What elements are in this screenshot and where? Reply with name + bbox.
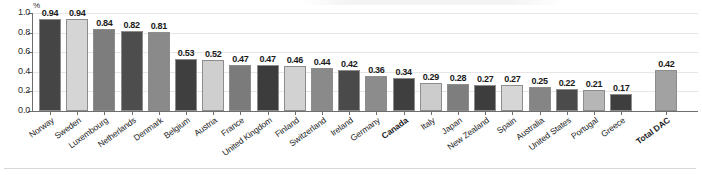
bar-italy[interactable]: 0.29	[420, 82, 442, 111]
bar-sweden[interactable]: 0.94	[66, 18, 88, 111]
bar-new-zealand[interactable]: 0.27	[474, 84, 496, 111]
bar-rect	[338, 70, 360, 111]
bar-rect	[257, 65, 279, 111]
bar-rect	[93, 29, 115, 111]
category-labels-layer: NorwaySwedenLuxembourgNetherlandsDenmark…	[32, 113, 698, 175]
bar-rect	[202, 60, 224, 111]
bar-rect	[229, 65, 251, 111]
bar-denmark[interactable]: 0.81	[148, 31, 170, 111]
bar-norway[interactable]: 0.94	[39, 18, 61, 111]
bar-rect	[148, 32, 170, 111]
bar-rect	[583, 90, 605, 111]
bar-ireland[interactable]: 0.42	[338, 69, 360, 111]
bar-united-states[interactable]: 0.22	[556, 88, 578, 111]
y-tick-label: 0.6	[0, 46, 30, 56]
bar-rect	[311, 68, 333, 111]
bar-belgium[interactable]: 0.53	[175, 58, 197, 111]
bar-rect	[529, 87, 551, 112]
bar-portugal[interactable]: 0.21	[583, 89, 605, 111]
bar-value-label: 0.42	[649, 59, 683, 69]
bar-value-label: 0.17	[604, 83, 638, 93]
bar-france[interactable]: 0.47	[229, 64, 251, 111]
bar-finland[interactable]: 0.46	[284, 65, 306, 111]
bar-united-kingdom[interactable]: 0.47	[257, 64, 279, 111]
bar-rect	[393, 78, 415, 111]
bar-rect	[610, 94, 632, 111]
bar-netherlands[interactable]: 0.82	[121, 30, 143, 111]
bar-rect	[474, 85, 496, 111]
bar-greece[interactable]: 0.17	[610, 93, 632, 111]
bar-rect	[501, 85, 523, 111]
bar-rect	[284, 66, 306, 111]
bar-rect	[556, 89, 578, 111]
y-tick-label: 0.8	[0, 27, 30, 37]
y-tick-label: 1.0	[0, 7, 30, 17]
bar-switzerland[interactable]: 0.44	[311, 67, 333, 111]
bar-value-label: 0.94	[60, 8, 94, 18]
bar-rect	[365, 76, 387, 111]
bar-rect	[39, 19, 61, 111]
bar-australia[interactable]: 0.25	[529, 86, 551, 112]
bar-rect	[655, 70, 677, 111]
bar-chart: % 0.00.20.40.60.81.0 0.940.940.840.820.8…	[0, 0, 702, 179]
y-tick-label: 0.4	[0, 66, 30, 76]
top-edge-artifact	[300, 0, 560, 5]
bar-spain[interactable]: 0.27	[501, 84, 523, 111]
bar-rect	[121, 31, 143, 111]
bar-value-label: 0.81	[142, 21, 176, 31]
bar-rect	[447, 84, 469, 111]
bars-layer: 0.940.940.840.820.810.530.520.470.470.46…	[32, 13, 698, 112]
bar-luxembourg[interactable]: 0.84	[93, 28, 115, 111]
y-tick-label: 0.0	[0, 105, 30, 115]
bar-total-dac[interactable]: 0.42	[655, 69, 677, 111]
bar-germany[interactable]: 0.36	[365, 75, 387, 111]
bar-canada[interactable]: 0.34	[393, 77, 415, 111]
bar-japan[interactable]: 0.28	[447, 83, 469, 111]
footer-divider	[4, 168, 696, 169]
y-tick-label: 0.2	[0, 85, 30, 95]
bar-rect	[66, 19, 88, 111]
bar-rect	[420, 83, 442, 111]
bar-rect	[175, 59, 197, 111]
bar-austria[interactable]: 0.52	[202, 59, 224, 111]
